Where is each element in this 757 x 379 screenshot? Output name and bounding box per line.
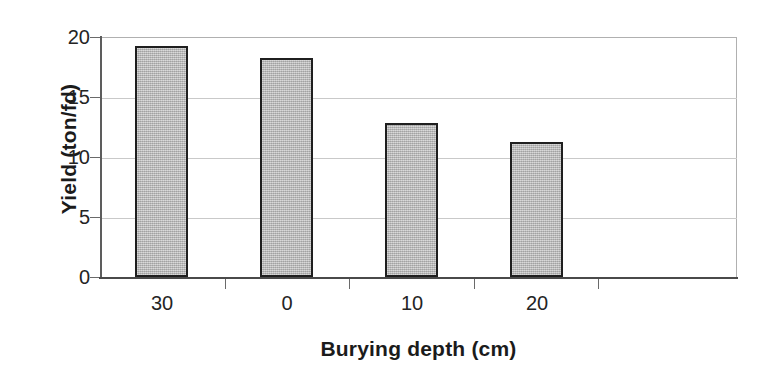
x-tick-mark-4 bbox=[598, 279, 599, 289]
x-tick-mark-3 bbox=[474, 279, 475, 289]
bar-20[interactable] bbox=[510, 142, 563, 277]
y-axis-line bbox=[100, 36, 102, 279]
y-tick-label-20: 20 bbox=[56, 26, 90, 49]
x-tick-label-20: 20 bbox=[497, 292, 577, 315]
y-axis-tick-labels: 0 5 10 15 20 bbox=[52, 0, 90, 379]
plot-area bbox=[100, 37, 737, 277]
x-tick-mark-2 bbox=[349, 279, 350, 289]
x-tick-label-30: 30 bbox=[122, 292, 202, 315]
x-axis-line bbox=[99, 277, 738, 279]
x-axis-title: Burying depth (cm) bbox=[100, 337, 737, 361]
gridline-15 bbox=[100, 98, 737, 99]
x-tick-mark-1 bbox=[225, 279, 226, 289]
y-tick-label-10: 10 bbox=[56, 146, 90, 169]
y-tick-label-15: 15 bbox=[56, 86, 90, 109]
x-tick-label-10: 10 bbox=[372, 292, 452, 315]
bar-30[interactable] bbox=[135, 46, 188, 277]
x-tick-label-0: 0 bbox=[247, 292, 327, 315]
y-tick-label-0: 0 bbox=[56, 266, 90, 289]
bar-0[interactable] bbox=[260, 58, 313, 277]
bar-chart-figure: Yield (ton/fd) 0 5 10 15 20 30 0 10 20 B… bbox=[0, 0, 757, 379]
bar-10[interactable] bbox=[385, 123, 438, 277]
y-tick-label-5: 5 bbox=[56, 206, 90, 229]
